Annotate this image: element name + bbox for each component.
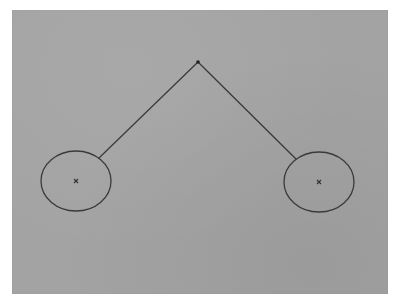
- connector-line-right: [198, 62, 296, 159]
- pendulum-diagram: [0, 0, 398, 305]
- left-center-cross-icon: [74, 179, 78, 183]
- connector-line-left: [99, 62, 198, 158]
- diagram-canvas: [0, 0, 398, 305]
- apex-pivot-point: [196, 60, 200, 64]
- right-center-cross-icon: [317, 180, 321, 184]
